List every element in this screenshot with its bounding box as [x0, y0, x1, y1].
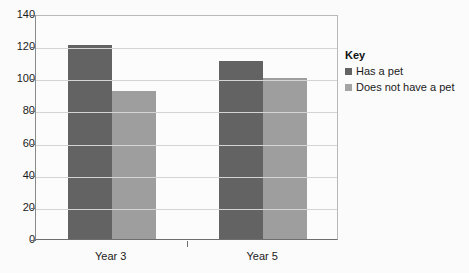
y-axis: 020406080100120140: [0, 0, 35, 273]
y-tick-mark: [31, 240, 36, 241]
chart-legend: Key Has a pet Does not have a pet: [345, 48, 465, 96]
gridline: [36, 80, 337, 81]
gridline: [36, 209, 337, 210]
legend-swatch-does-not-have-a-pet: [345, 84, 352, 91]
legend-title: Key: [345, 48, 465, 62]
bar-year-5-series-0: [219, 61, 263, 239]
bar-year-5-series-1: [263, 78, 307, 239]
legend-item-does-not-have-a-pet: Does not have a pet: [345, 80, 465, 95]
x-axis-label-year-3: Year 3: [35, 250, 187, 262]
gridline: [36, 48, 337, 49]
x-axis-label-year-5: Year 5: [187, 250, 339, 262]
legend-label-does-not-have-a-pet: Does not have a pet: [356, 80, 454, 95]
legend-swatch-has-a-pet: [345, 68, 352, 75]
legend-label-has-a-pet: Has a pet: [356, 64, 403, 79]
legend-item-has-a-pet: Has a pet: [345, 64, 465, 79]
gridline: [36, 145, 337, 146]
bar-chart: 020406080100120140 Year 3Year 5 Key Has …: [0, 0, 469, 273]
plot-area: [35, 15, 338, 240]
gridline: [36, 112, 337, 113]
gridline: [36, 177, 337, 178]
bars-layer: [36, 16, 337, 239]
x-tick-mark: [187, 241, 188, 247]
